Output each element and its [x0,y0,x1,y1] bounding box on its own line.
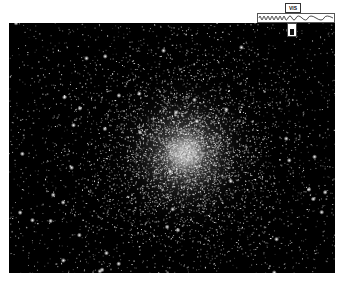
band-label: VIS [285,3,301,13]
star-field [9,23,335,273]
band-pointer-icon [287,23,297,37]
star-cluster-image [9,23,335,273]
wavelength-band-indicator: VIS [257,3,335,37]
spectrum-wave-icon [257,13,335,23]
